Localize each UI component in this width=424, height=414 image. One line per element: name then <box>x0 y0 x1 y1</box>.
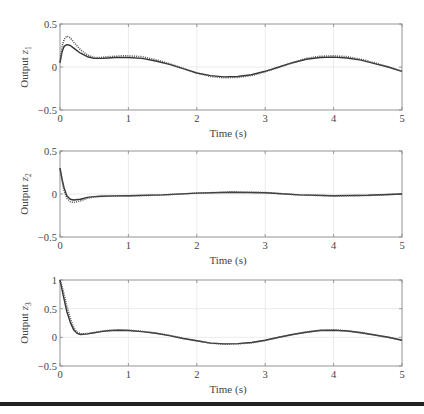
y-tick-label: −0.5 <box>38 105 57 116</box>
x-axis-label: Time (s) <box>209 383 247 396</box>
x-tick-label: 3 <box>263 369 268 380</box>
x-tick-label: 2 <box>194 369 199 380</box>
x-tick-label: 0 <box>57 113 62 124</box>
x-tick-label: 3 <box>263 113 268 124</box>
x-tick-label: 5 <box>399 369 404 380</box>
y-tick-label: 0 <box>52 62 57 73</box>
y-tick-label: 1 <box>52 275 57 286</box>
series-reference-line <box>60 168 402 202</box>
y-tick-label: 0.5 <box>44 19 57 30</box>
plot-output-z1: 012345−0.500.5Time (s)Output z1 <box>18 19 405 140</box>
x-tick-label: 1 <box>126 369 131 380</box>
x-tick-label: 0 <box>57 240 62 251</box>
x-tick-label: 4 <box>331 113 337 124</box>
series-reference-line <box>60 280 402 344</box>
y-axis-label: Output z1 <box>18 46 33 88</box>
y-tick-label: 0 <box>52 332 57 343</box>
page-rule-divider <box>0 402 424 406</box>
plot-output-z2: 012345−0.500.5Time (s)Output z2 <box>18 146 405 267</box>
x-tick-label: 0 <box>57 369 62 380</box>
axes-box <box>60 280 402 366</box>
x-tick-label: 4 <box>331 369 337 380</box>
plot-output-z3: 012345−0.500.51Time (s)Output z3 <box>18 275 405 396</box>
x-tick-label: 3 <box>263 240 268 251</box>
y-axis-label: Output z2 <box>18 173 33 215</box>
figure: 012345−0.500.5Time (s)Output z1 012345−0… <box>0 0 424 414</box>
series-reference-line <box>60 36 402 78</box>
y-tick-label: −0.5 <box>38 232 57 243</box>
x-tick-label: 1 <box>126 240 131 251</box>
x-tick-label: 2 <box>194 240 199 251</box>
y-tick-label: 0 <box>52 189 57 200</box>
y-tick-label: 0.5 <box>44 146 57 157</box>
x-axis-label: Time (s) <box>209 254 247 267</box>
x-axis-label: Time (s) <box>209 127 247 140</box>
x-tick-label: 5 <box>399 113 404 124</box>
y-tick-label: 0.5 <box>44 304 57 315</box>
series-actual-line <box>60 280 402 344</box>
figure-canvas: 012345−0.500.5Time (s)Output z1 012345−0… <box>0 0 424 414</box>
y-tick-label: −0.5 <box>38 361 57 372</box>
x-tick-label: 5 <box>399 240 404 251</box>
series-actual-line <box>60 45 402 77</box>
x-tick-label: 4 <box>331 240 337 251</box>
x-tick-label: 1 <box>126 113 131 124</box>
y-axis-label: Output z3 <box>18 302 33 344</box>
x-tick-label: 2 <box>194 113 199 124</box>
